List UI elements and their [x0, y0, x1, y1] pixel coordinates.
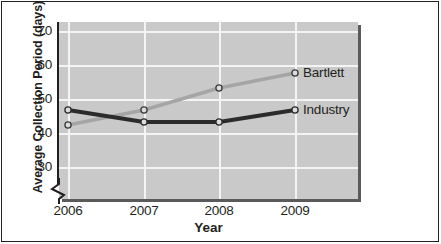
x-tick-2008: 2008	[187, 203, 251, 218]
data-point-industry-2008	[216, 119, 222, 125]
chart-figure: Bartlett Industry 70 60 50 40 30 2006 20…	[0, 0, 441, 244]
series-label-industry: Industry	[303, 102, 349, 117]
x-tick-2007: 2007	[112, 203, 176, 218]
data-point-bartlett-2009	[292, 70, 298, 76]
data-point-industry-2006	[65, 107, 71, 113]
data-point-industry-2009	[292, 107, 298, 113]
x-tick-2006: 2006	[36, 203, 100, 218]
data-point-industry-2007	[141, 119, 147, 125]
data-point-bartlett-2007	[141, 107, 147, 113]
y-axis-title: Average Collection Period (days)	[31, 0, 45, 197]
series-line-industry	[68, 110, 295, 122]
x-tick-2009: 2009	[263, 203, 327, 218]
data-point-bartlett-2008	[216, 85, 222, 91]
series-label-bartlett: Bartlett	[303, 65, 344, 80]
data-point-bartlett-2006	[65, 122, 71, 128]
x-axis-title: Year	[59, 220, 358, 235]
